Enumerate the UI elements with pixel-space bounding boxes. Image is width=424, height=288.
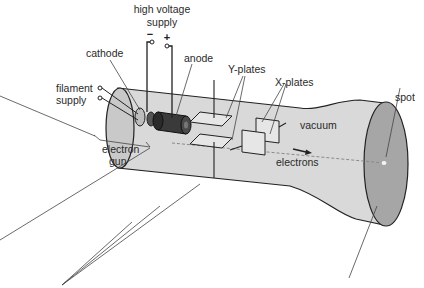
- label-anode: anode: [184, 52, 213, 64]
- label-plus: +: [164, 31, 170, 43]
- label-filament-line1: filament: [56, 82, 93, 94]
- crt-diagram-svg: high voltage supply − + cathode anode fi…: [0, 0, 424, 288]
- label-spot: spot: [395, 91, 415, 103]
- label-cathode: cathode: [86, 47, 124, 59]
- label-minus: −: [147, 28, 153, 40]
- label-electrons: electrons: [276, 156, 319, 168]
- label-electron-gun-line1: electron: [102, 143, 140, 155]
- label-high-voltage-line1: high voltage: [134, 3, 191, 15]
- tube-body: [118, 88, 384, 225]
- label-x-plates: X-plates: [275, 76, 314, 88]
- label-high-voltage-line2: supply: [147, 16, 178, 28]
- crt-diagram: high voltage supply − + cathode anode fi…: [0, 0, 424, 288]
- label-vacuum: vacuum: [300, 119, 337, 131]
- label-electron-gun-line2: gun: [109, 155, 127, 167]
- label-filament-line2: supply: [56, 94, 87, 106]
- label-y-plates: Y-plates: [228, 63, 266, 75]
- spot-marker: [382, 161, 387, 165]
